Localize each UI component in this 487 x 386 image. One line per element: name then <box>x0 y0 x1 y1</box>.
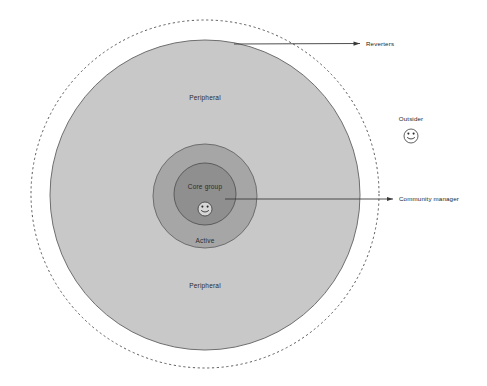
peripheral-bottom-label: Peripheral <box>189 282 221 290</box>
smiley-left-eye-icon <box>407 133 409 135</box>
smiley-right-eye-icon <box>413 133 415 135</box>
outsider-label: Outsider <box>399 115 424 122</box>
active-label: Active <box>196 237 215 244</box>
smiley-face-icon <box>198 202 212 216</box>
peripheral-top-label: Peripheral <box>189 94 221 102</box>
community-manager-callout-label: Community manager <box>399 195 459 202</box>
smiley-face-icon <box>404 129 418 143</box>
smiley-left-eye-icon <box>201 206 203 208</box>
core-group-label: Core group <box>188 183 223 191</box>
reverters-callout-arrow <box>234 44 360 45</box>
community-diagram-svg: Peripheral Peripheral Active Core group … <box>0 0 487 386</box>
reverters-callout-label: Reverters <box>366 40 394 47</box>
outsider-avatar[interactable] <box>404 129 418 143</box>
smiley-right-eye-icon <box>207 206 209 208</box>
community-manager-avatar[interactable] <box>198 202 212 216</box>
community-diagram-canvas: Peripheral Peripheral Active Core group … <box>0 0 487 386</box>
